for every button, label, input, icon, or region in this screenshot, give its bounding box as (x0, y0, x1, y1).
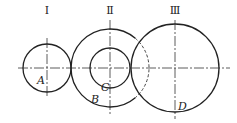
gear-label-C: C (101, 81, 110, 94)
axis-label-III: Ⅲ (170, 4, 181, 17)
gear-train-diagram: Ⅰ Ⅱ Ⅲ A B C D (0, 0, 237, 123)
axis-label-I: Ⅰ (45, 4, 49, 17)
gear-label-A: A (36, 74, 45, 87)
axis-label-II: Ⅱ (106, 4, 113, 17)
gear-label-D: D (177, 100, 187, 113)
gear-label-B: B (90, 93, 99, 106)
